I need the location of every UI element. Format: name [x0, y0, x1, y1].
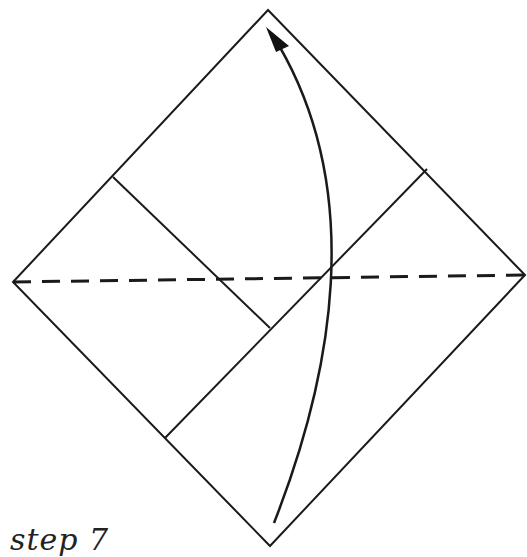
square-outline	[13, 10, 525, 546]
valley-fold-line	[13, 275, 525, 282]
step-caption: step 7	[10, 522, 109, 557]
arrow-head-icon	[266, 27, 289, 52]
inner-crease-line	[113, 177, 270, 328]
flap-edge-line	[165, 169, 427, 438]
